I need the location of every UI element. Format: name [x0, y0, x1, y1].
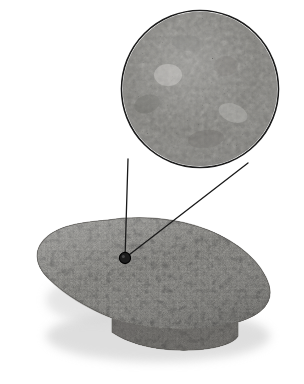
figure-root: [0, 0, 304, 384]
sample-point-marker: [119, 252, 130, 263]
figure-canvas: [0, 0, 304, 384]
